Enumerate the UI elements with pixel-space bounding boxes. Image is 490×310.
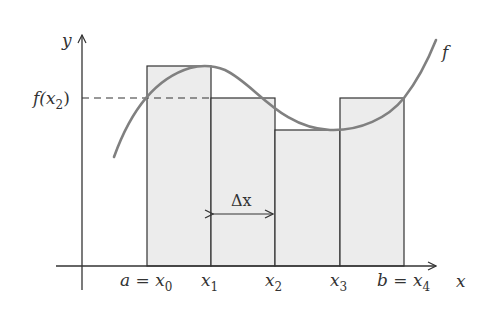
- rectangle-1: [147, 66, 211, 266]
- tick-label-x1: x1: [201, 270, 218, 294]
- x-axis-label: x: [456, 271, 466, 291]
- svg-text:f(x2): f(x2): [31, 88, 70, 112]
- tick-label-x2: x2: [265, 270, 282, 294]
- riemann-sum-diagram: Δx y x f f(x2) a = x0 x1 x2 x3 b = x4: [0, 0, 490, 310]
- rectangle-2: [211, 98, 275, 266]
- function-label: f: [440, 42, 451, 62]
- f-x2-label: f(x2): [31, 88, 70, 112]
- tick-label-x4: b = x4: [377, 270, 431, 294]
- rectangle-3: [275, 130, 340, 266]
- riemann-rectangles: [147, 66, 404, 266]
- tick-label-x0: a = x0: [120, 270, 172, 294]
- y-axis-label: y: [61, 30, 72, 50]
- x-tick-labels: a = x0 x1 x2 x3 b = x4: [120, 270, 431, 294]
- delta-x-label: Δx: [231, 191, 252, 210]
- tick-label-x3: x3: [330, 270, 347, 294]
